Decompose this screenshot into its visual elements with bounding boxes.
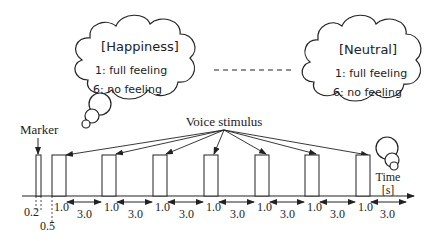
stimulus-duration-value: 1.0 — [358, 200, 373, 214]
interval-value: 3.0 — [128, 207, 143, 221]
neutral-cloud-title: [Neutral] — [339, 42, 397, 57]
interval-value: 3.0 — [380, 207, 395, 221]
interval-value: 3.0 — [230, 207, 245, 221]
diagram-canvas: [Happiness] 1: full feeling 6: no feelin… — [0, 0, 447, 241]
stimulus-duration-value: 1.0 — [54, 200, 69, 214]
marker-label: Marker — [20, 122, 59, 137]
stimulus-duration-value: 1.0 — [257, 200, 272, 214]
happiness-cloud-line2: 6: no feeling — [93, 83, 162, 96]
time-unit-label: [s] — [382, 183, 395, 197]
timing-values: 0.2 0.5 1.0 1.0 1.0 1.0 1.0 1.0 1.0 3.0 … — [24, 200, 395, 233]
happiness-cloud-line1: 1: full feeling — [95, 64, 167, 77]
stimulus-pulse — [255, 155, 269, 196]
marker-pulse — [36, 155, 41, 196]
stimulus-pulse — [102, 155, 116, 196]
stimulus-pulse — [153, 155, 167, 196]
stimulus-duration-value: 1.0 — [307, 200, 322, 214]
interval-value: 3.0 — [330, 207, 345, 221]
experiment-timeline-diagram: [Happiness] 1: full feeling 6: no feelin… — [0, 0, 447, 241]
stimulus-duration-value: 1.0 — [206, 200, 221, 214]
stimulus-pulse — [356, 155, 370, 196]
stimulus-pointer-arrows — [66, 130, 368, 155]
voice-stimulus-label: Voice stimulus — [186, 114, 263, 129]
stimulus-pulse — [204, 155, 218, 196]
stimulus-pulse — [305, 155, 319, 196]
happiness-cloud-title: [Happiness] — [101, 39, 179, 54]
interval-value: 3.0 — [179, 207, 194, 221]
interval-value: 3.0 — [280, 207, 295, 221]
stimulus-pulse — [52, 155, 66, 196]
stimulus-pulses — [52, 155, 370, 196]
stimulus-duration-value: 1.0 — [155, 200, 170, 214]
gap-value: 0.5 — [40, 219, 55, 233]
time-axis-label: Time — [376, 170, 401, 184]
interval-value: 3.0 — [77, 207, 92, 221]
marker-width-value: 0.2 — [24, 205, 39, 219]
stimulus-duration-value: 1.0 — [104, 200, 119, 214]
neutral-cloud-line2: 6: no feeling — [333, 86, 402, 99]
neutral-cloud-line1: 1: full feeling — [335, 67, 407, 80]
